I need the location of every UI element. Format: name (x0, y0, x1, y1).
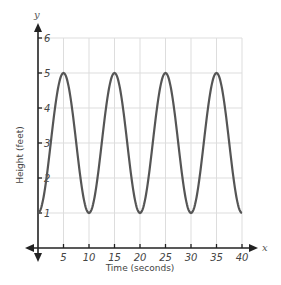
y-axis-arrow-down-icon (34, 253, 42, 262)
x-tick-label: 25 (159, 252, 172, 263)
x-axis-arrow-left-icon (25, 244, 34, 252)
chart-canvas: 510152025303540123456 Time (seconds) Hei… (0, 0, 281, 285)
y-tick-label: 1 (44, 208, 50, 219)
tick-labels: 510152025303540123456 (44, 33, 248, 263)
y-axis-letter: y (33, 9, 40, 20)
x-tick-label: 20 (134, 252, 147, 263)
x-axis-arrow-right-icon (249, 244, 258, 252)
x-tick-label: 35 (210, 252, 223, 263)
y-axis-title: Height (feet) (15, 126, 25, 183)
x-tick-label: 40 (236, 252, 249, 263)
y-axis-arrow-up-icon (34, 23, 42, 32)
y-tick-label: 4 (44, 103, 50, 114)
x-tick-label: 30 (185, 252, 198, 263)
x-tick-label: 10 (83, 252, 96, 263)
y-tick-label: 5 (44, 68, 50, 79)
x-axis-title: Time (seconds) (105, 263, 175, 273)
x-tick-label: 5 (60, 252, 66, 263)
y-tick-label: 6 (44, 33, 50, 44)
x-axis-letter: x (262, 242, 268, 253)
grid-lines (38, 38, 242, 248)
x-tick-label: 15 (108, 252, 121, 263)
